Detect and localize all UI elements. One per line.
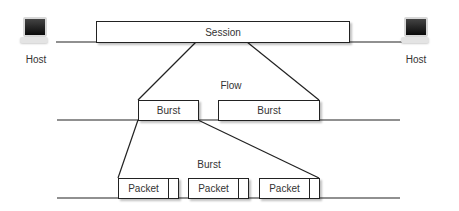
- monitor-base: [20, 37, 48, 43]
- host-left-computer-icon: [20, 14, 46, 44]
- packet-box-1: Packet: [118, 178, 179, 199]
- packet-trailer: [169, 179, 178, 198]
- packet-box-2: Packet: [188, 178, 249, 199]
- burst-label: Burst: [157, 105, 180, 116]
- monitor-base: [401, 37, 429, 43]
- host-left-label: Host: [26, 54, 47, 65]
- flow-label: Flow: [220, 80, 241, 91]
- host-right-label: Host: [406, 54, 427, 65]
- packet-trailer: [239, 179, 248, 198]
- packet-label: Packet: [269, 183, 300, 194]
- monitor-screen: [404, 17, 428, 37]
- packet-box-3: Packet: [259, 178, 320, 199]
- monitor-screen: [23, 17, 47, 37]
- packet-label: Packet: [128, 183, 159, 194]
- flow-burst-box-1: Burst: [138, 100, 199, 121]
- burst-label: Burst: [257, 105, 280, 116]
- flow-burst-box-2: Burst: [218, 100, 320, 121]
- packet-trailer: [310, 179, 319, 198]
- session-box: Session: [96, 21, 350, 43]
- packet-label: Packet: [198, 183, 229, 194]
- host-right-computer-icon: [401, 14, 427, 44]
- session-label: Session: [205, 27, 241, 38]
- burst-section-label: Burst: [197, 159, 220, 170]
